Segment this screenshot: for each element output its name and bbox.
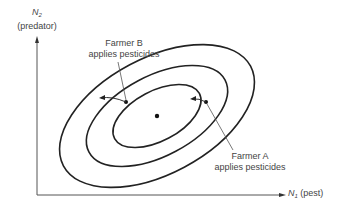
y-axis-text: (predator) bbox=[17, 21, 57, 31]
y-axis-arrowhead-icon bbox=[35, 36, 39, 43]
y-axis-label: N2 (predator) bbox=[14, 7, 60, 32]
farmer-b-annotation: Farmer B applies pesticides bbox=[74, 38, 174, 60]
y-axis-symbol: N2 bbox=[32, 7, 42, 17]
farmer-b-arrowhead-icon bbox=[99, 95, 105, 100]
farmer-b-action: applies pesticides bbox=[88, 49, 159, 59]
x-axis-arrowhead-icon bbox=[279, 193, 286, 197]
farmer-a-action: applies pesticides bbox=[214, 162, 285, 172]
farmer-a-annotation: Farmer A applies pesticides bbox=[200, 151, 300, 173]
farmer-b-title: Farmer B bbox=[105, 38, 143, 48]
farmer-a-arrowhead-icon bbox=[190, 96, 196, 101]
equilibrium-point bbox=[155, 114, 159, 118]
x-axis-label: N1 (pest) bbox=[288, 188, 323, 202]
farmer-a-title: Farmer A bbox=[231, 151, 268, 161]
x-axis-text: (pest) bbox=[300, 188, 323, 198]
x-axis-symbol: N1 bbox=[288, 188, 298, 198]
